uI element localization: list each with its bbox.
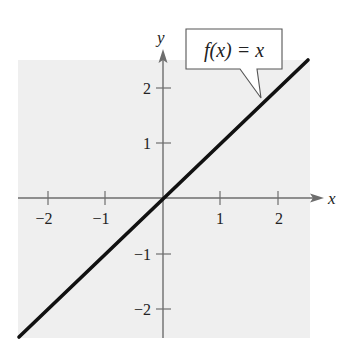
x-axis-label: x	[327, 189, 336, 208]
y-tick-label: −2	[134, 301, 151, 318]
x-tick-label: 1	[216, 210, 224, 227]
x-tick-label: 2	[275, 210, 283, 227]
y-tick-label: 1	[143, 135, 151, 152]
y-tick-label: 2	[143, 80, 151, 97]
x-tick-label: −1	[92, 210, 109, 227]
x-tick-label: −2	[35, 210, 52, 227]
callout-label: f(x) = x	[204, 39, 264, 62]
y-tick-label: −1	[134, 246, 151, 263]
function-graph: x y −2 −1 1 2 2 1 −1 −2	[0, 0, 354, 360]
y-axis-label: y	[155, 28, 165, 47]
